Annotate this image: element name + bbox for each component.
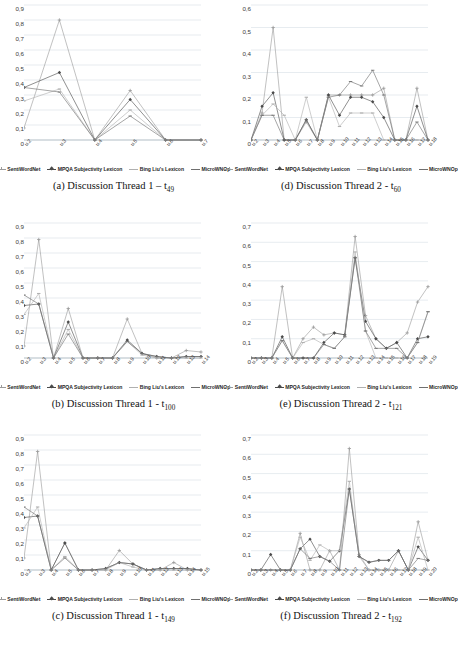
legend-item[interactable]: MPQA Subjectivity Lexicon — [275, 384, 350, 390]
legend-marker-diamond-icon — [47, 596, 56, 602]
y-tick-label: 0,7 — [15, 36, 24, 42]
legend-item[interactable]: MicroWNOp — [419, 166, 458, 172]
y-tick-label: 0,1 — [15, 344, 24, 350]
legend-item[interactable]: Bing Liu's Lexicon — [357, 384, 412, 390]
panel-caption-f: (f) Discussion Thread 2 - t192 — [227, 610, 455, 624]
legend-label: Bing Liu's Lexicon — [367, 596, 411, 602]
legend-item[interactable]: SentiWordNet — [224, 384, 267, 390]
y-tick-label: 0,6 — [242, 243, 251, 249]
legend-item[interactable]: MPQA Subjectivity Lexicon — [47, 166, 122, 172]
caption-subscript: 60 — [394, 186, 401, 194]
legend-label: MicroWNOp — [429, 166, 458, 172]
legend-label: Bing Liu's Lexicon — [140, 596, 184, 602]
legend-marker-line-icon — [191, 384, 200, 390]
caption-subscript: 100 — [164, 404, 175, 412]
legend-marker-plus-icon — [0, 596, 6, 602]
y-tick-label: 0,1 — [15, 126, 24, 132]
legend-item[interactable]: Bing Liu's Lexicon — [129, 596, 184, 602]
legend-item[interactable]: SentiWordNet — [0, 166, 40, 172]
legend-item[interactable]: MPQA Subjectivity Lexicon — [275, 596, 350, 602]
legend-item[interactable]: Bing Liu's Lexicon — [129, 384, 184, 390]
legend-marker-diamond-icon — [275, 166, 284, 172]
caption-subscript: 192 — [391, 616, 402, 624]
legend-item[interactable]: MPQA Subjectivity Lexicon — [47, 596, 122, 602]
plot-area-a — [24, 0, 207, 158]
legend-item[interactable]: SentiWordNet — [224, 166, 267, 172]
chart-panel-a: 00,10,20,30,40,50,60,70,80,9u.2u.3u.4u.5… — [0, 0, 227, 218]
legend-label: SentiWordNet — [235, 166, 268, 172]
caption-subscript: 121 — [392, 404, 403, 412]
caption-subscript: 149 — [164, 616, 175, 624]
legend-marker-diamond-icon — [47, 384, 56, 390]
legend-item[interactable]: MPQA Subjectivity Lexicon — [275, 166, 350, 172]
legend-label: MPQA Subjectivity Lexicon — [58, 166, 123, 172]
plot-area-d — [251, 0, 434, 158]
legend-item[interactable]: MicroWNOp — [419, 596, 458, 602]
plot-wrap-f: 00,10,20,30,40,50,60,7u.2u.3u.4u.5u.6u.7… — [227, 430, 455, 588]
legend-label: Bing Liu's Lexicon — [367, 166, 411, 172]
legend-marker-line-icon — [191, 596, 200, 602]
legend-label: MPQA Subjectivity Lexicon — [285, 166, 350, 172]
y-tick-label: 0,9 — [15, 436, 24, 442]
y-tick-label: 0,7 — [15, 254, 24, 260]
legend-label: SentiWordNet — [7, 596, 40, 602]
legend-label: SentiWordNet — [235, 384, 268, 390]
legend-marker-plus-icon — [0, 384, 6, 390]
legend-marker-line-icon — [419, 166, 428, 172]
y-tick-label: 0,7 — [242, 436, 251, 442]
y-tick-label: 0,2 — [242, 96, 251, 102]
plot-area-c — [24, 430, 207, 588]
y-tick-label: 0,2 — [242, 320, 251, 326]
legend-label: SentiWordNet — [7, 384, 40, 390]
legend-marker-dash-icon — [129, 166, 138, 172]
legend-marker-plus-icon — [224, 384, 233, 390]
y-tick-label: 0,4 — [15, 81, 24, 87]
y-tick-label: 0,8 — [15, 451, 24, 457]
y-tick-label: 0,5 — [242, 475, 251, 481]
legend-label: MicroWNOp — [429, 384, 458, 390]
legend-label: MPQA Subjectivity Lexicon — [58, 384, 123, 390]
legend-marker-plus-icon — [224, 166, 233, 172]
y-tick-label: 0,4 — [242, 282, 251, 288]
legend-item[interactable]: MicroWNOp — [419, 384, 458, 390]
plot-wrap-c: 00,10,20,30,40,50,60,70,80,9u.2u.3u.4u.5… — [0, 430, 227, 588]
y-tick-label: 0,2 — [15, 329, 24, 335]
legend-item[interactable]: Bing Liu's Lexicon — [357, 596, 412, 602]
legend-label: Bing Liu's Lexicon — [140, 384, 184, 390]
legend-marker-dash-icon — [357, 166, 366, 172]
legend-item[interactable]: Bing Liu's Lexicon — [129, 166, 184, 172]
legend-marker-diamond-icon — [275, 596, 284, 602]
y-tick-label: 0,5 — [15, 66, 24, 72]
y-tick-label: 0,6 — [15, 481, 24, 487]
y-tick-label: 0,1 — [242, 340, 251, 346]
legend-marker-line-icon — [191, 166, 200, 172]
y-tick-label: 0,6 — [15, 269, 24, 275]
y-tick-label: 0,5 — [15, 496, 24, 502]
legend-item[interactable]: Bing Liu's Lexicon — [357, 166, 412, 172]
y-tick-label: 0,3 — [242, 513, 251, 519]
legend-marker-line-icon — [419, 596, 428, 602]
legend-item[interactable]: MPQA Subjectivity Lexicon — [47, 384, 122, 390]
y-tick-label: 0,9 — [15, 6, 24, 12]
y-axis-labels-f: 00,10,20,30,40,50,60,7 — [229, 434, 251, 574]
y-tick-label: 0,4 — [242, 494, 251, 500]
legend-item[interactable]: SentiWordNet — [224, 596, 267, 602]
legend-item[interactable]: SentiWordNet — [0, 384, 40, 390]
legend-a: SentiWordNetMPQA Subjectivity LexiconBin… — [0, 166, 227, 172]
y-tick-label: 0,3 — [15, 526, 24, 532]
y-tick-label: 0,6 — [242, 455, 251, 461]
y-tick-label: 0,1 — [15, 556, 24, 562]
panel-caption-d: (d) Discussion Thread 2 - t60 — [227, 180, 455, 194]
legend-label: Bing Liu's Lexicon — [367, 384, 411, 390]
y-tick-label: 0,5 — [15, 284, 24, 290]
y-tick-label: 0,6 — [15, 51, 24, 57]
legend-item[interactable]: SentiWordNet — [0, 596, 40, 602]
y-tick-label: 0,8 — [15, 239, 24, 245]
panel-caption-a: (a) Discussion Thread 1 – t49 — [0, 180, 227, 194]
y-tick-label: 0,3 — [242, 301, 251, 307]
legend-label: SentiWordNet — [235, 596, 268, 602]
y-tick-label: 0,6 — [242, 6, 251, 12]
y-tick-label: 0,8 — [15, 21, 24, 27]
y-tick-label: 0,9 — [15, 224, 24, 230]
y-tick-label: 0,2 — [15, 111, 24, 117]
